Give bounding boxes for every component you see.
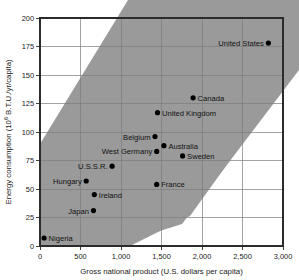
y-tick-label: 0 — [30, 242, 34, 251]
y-axis-title-prefix: Energy consumption (10 — [4, 119, 13, 204]
svg-text:Energy consumption (106 B.T.U.: Energy consumption (106 B.T.U./yr/capita… — [3, 59, 13, 205]
y-tick-label: 25 — [26, 213, 34, 222]
y-tick-label: 175 — [22, 42, 34, 51]
x-tick-labels: 0 500 1,000 1,500 2,000 2,500 3,000 — [38, 252, 292, 261]
y-tick-label: 200 — [22, 14, 34, 23]
point-label: Australia — [168, 142, 198, 151]
x-axis-title: Gross national product (U.S. dollars per… — [80, 267, 243, 276]
scatter-chart: 200 175 150 125 100 75 50 25 0 0 500 1,0… — [0, 0, 299, 280]
point-marker[interactable] — [110, 164, 115, 169]
point-label: Sweden — [187, 152, 214, 161]
y-axis-title: Energy consumption (106 B.T.U./yr/capita… — [3, 59, 13, 205]
point-marker[interactable] — [161, 143, 166, 148]
point-marker[interactable] — [266, 41, 271, 46]
point-label: United Kingdom — [162, 109, 216, 118]
chart-figure: 200 175 150 125 100 75 50 25 0 0 500 1,0… — [0, 0, 299, 280]
y-tick-label: 100 — [22, 128, 34, 137]
point-marker[interactable] — [155, 110, 160, 115]
point-label: Canada — [198, 94, 225, 103]
y-tick-label: 150 — [22, 71, 34, 80]
y-tick-labels: 200 175 150 125 100 75 50 25 0 — [22, 14, 34, 251]
y-tick-label: 50 — [26, 185, 34, 194]
point-marker[interactable] — [191, 95, 196, 100]
data-point-west-germany[interactable]: West Germany — [102, 147, 160, 156]
y-tick-label: 75 — [26, 156, 34, 165]
x-tick-label: 500 — [74, 252, 86, 261]
point-label: United States — [218, 39, 264, 48]
point-label: West Germany — [102, 147, 153, 156]
x-tick-label: 1,500 — [152, 252, 171, 261]
point-marker[interactable] — [42, 235, 47, 240]
y-axis-ticks — [36, 18, 40, 246]
point-marker[interactable] — [91, 208, 96, 213]
data-point-united-kingdom[interactable]: United Kingdom — [155, 109, 216, 118]
x-tick-label: 1,000 — [112, 252, 131, 261]
y-axis-title-suffix: B.T.U./yr/capita) — [4, 59, 13, 117]
point-label: Belgium — [123, 133, 150, 142]
data-point-united-states[interactable]: United States — [218, 39, 271, 48]
point-marker[interactable] — [154, 182, 159, 187]
point-label: Ireland — [99, 191, 122, 200]
point-label: France — [161, 180, 185, 189]
point-label: Hungary — [53, 177, 82, 186]
point-label: U.S.S.R. — [78, 162, 108, 171]
point-marker[interactable] — [180, 153, 185, 158]
y-tick-label: 125 — [22, 99, 34, 108]
x-tick-label: 2,500 — [233, 252, 252, 261]
point-label: Nigeria — [49, 234, 74, 243]
point-marker[interactable] — [84, 178, 89, 183]
x-tick-label: 2,000 — [193, 252, 212, 261]
x-tick-label: 3,000 — [274, 252, 293, 261]
point-marker[interactable] — [152, 134, 157, 139]
point-label: Japan — [68, 207, 89, 216]
point-marker[interactable] — [92, 192, 97, 197]
point-marker[interactable] — [154, 149, 159, 154]
x-tick-label: 0 — [38, 252, 42, 261]
